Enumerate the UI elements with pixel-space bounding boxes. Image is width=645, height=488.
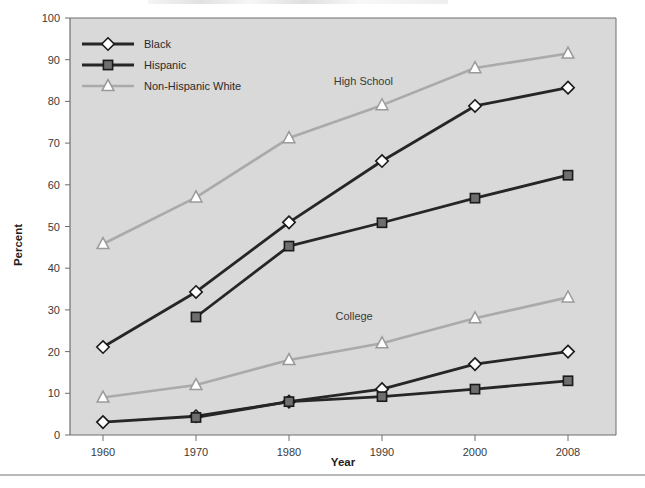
legend-label: Non-Hispanic White (144, 80, 241, 92)
annotation-label: High School (334, 75, 393, 87)
y-tick-label: 90 (48, 54, 60, 66)
x-tick-label: 2000 (463, 446, 487, 458)
square-marker (284, 241, 293, 250)
chart-page: 0102030405060708090100 19601970198019902… (0, 0, 645, 488)
line-chart: 0102030405060708090100 19601970198019902… (0, 0, 645, 476)
y-tick-label: 20 (48, 346, 60, 358)
y-tick-label: 10 (48, 387, 60, 399)
x-tick-label: 1970 (184, 446, 208, 458)
y-tick-label: 80 (48, 95, 60, 107)
square-marker (103, 60, 112, 69)
x-tick-label: 1960 (91, 446, 115, 458)
y-tick-label: 70 (48, 137, 60, 149)
x-tick-label: 2008 (556, 446, 580, 458)
square-marker (191, 312, 200, 321)
y-axis-ticks: 0102030405060708090100 (42, 12, 70, 441)
legend-label: Black (144, 38, 171, 50)
y-tick-label: 60 (48, 179, 60, 191)
annotation-label: College (335, 310, 372, 322)
square-marker (284, 397, 293, 406)
y-tick-label: 50 (48, 221, 60, 233)
square-marker (563, 376, 572, 385)
square-marker (377, 392, 386, 401)
x-tick-label: 1990 (370, 446, 394, 458)
y-tick-label: 0 (54, 429, 60, 441)
square-marker (377, 218, 386, 227)
legend-label: Hispanic (144, 59, 187, 71)
square-marker (563, 171, 572, 180)
y-tick-label: 100 (42, 12, 60, 24)
square-marker (191, 413, 200, 422)
y-axis-title: Percent (12, 224, 24, 266)
square-marker (470, 385, 479, 394)
x-axis-ticks: 196019701980199020002008 (91, 435, 580, 458)
y-tick-label: 30 (48, 304, 60, 316)
square-marker (470, 194, 479, 203)
y-tick-label: 40 (48, 262, 60, 274)
bottom-divider (0, 474, 645, 476)
x-axis-title: Year (331, 456, 356, 468)
x-tick-label: 1980 (277, 446, 301, 458)
